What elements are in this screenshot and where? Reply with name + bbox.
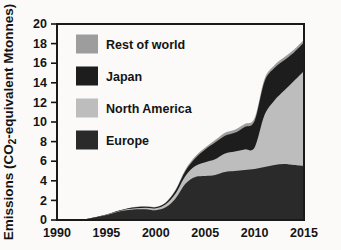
y-tick-label: 8 [40,135,47,149]
y-tick-label: 20 [33,17,47,31]
y-tick-label: 10 [33,115,47,129]
emissions-chart: 02468101214161820 1990199520002005201020… [0,0,341,250]
legend-label: Europe [106,134,149,148]
area-europe [57,164,304,220]
legend-swatch [76,131,98,150]
legend-item-japan: Japan [76,67,142,86]
legend-item-europe: Europe [76,131,149,150]
y-tick-label: 2 [40,194,47,208]
legend: Rest of worldJapanNorth AmericaEurope [76,35,193,150]
y-axis-title: Emissions (CO2-equivalent Mtonnes) [1,4,18,241]
x-tick-label: 2010 [241,226,269,240]
y-tick-label: 4 [40,174,47,188]
legend-item-rest-of-world: Rest of world [76,35,185,54]
legend-label: Rest of world [106,38,185,52]
legend-item-north-america: North America [76,99,193,118]
x-axis: 199019952000200520102015 [43,226,318,240]
x-tick-label: 1995 [92,226,120,240]
x-tick-label: 1990 [43,226,71,240]
y-tick-label: 14 [33,76,47,90]
x-tick-label: 2015 [290,226,318,240]
y-axis-label: Emissions (CO2-equivalent Mtonnes) [1,4,18,241]
legend-swatch [76,99,98,118]
y-tick-label: 18 [33,37,47,51]
y-axis: 02468101214161820 [33,17,57,227]
y-tick-label: 16 [33,56,47,70]
y-tick-label: 6 [40,154,47,168]
legend-swatch [76,67,98,86]
x-tick-label: 2000 [142,226,170,240]
legend-label: North America [106,102,193,116]
x-tick-label: 2005 [191,226,219,240]
y-tick-label: 12 [33,96,47,110]
legend-swatch [76,35,98,54]
legend-label: Japan [106,70,142,84]
emissions-stacked-area-figure: 02468101214161820 1990199520002005201020… [0,0,341,250]
